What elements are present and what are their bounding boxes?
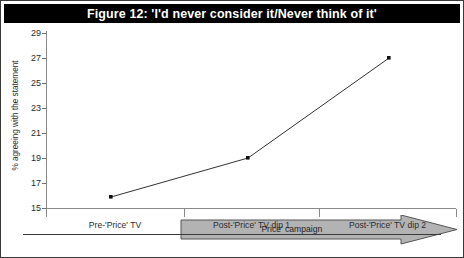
data-point-marker: [109, 195, 113, 199]
x-axis-category-label: Pre-'Price' TV: [46, 220, 184, 230]
chart-plot-area: % agreeing with the statement 29 27 25 2…: [1, 23, 464, 258]
x-axis-category-label: Post-'Price' TV dip 1: [184, 220, 319, 230]
bottom-divider: [23, 234, 441, 235]
series-line: [111, 58, 389, 197]
figure-title: Figure 12: 'I'd never consider it/Never …: [87, 7, 377, 21]
figure-title-bar: Figure 12: 'I'd never consider it/Never …: [4, 4, 460, 23]
data-point-marker: [387, 56, 391, 60]
x-axis-category-label: Post-'Price' TV dip 2: [319, 220, 456, 230]
figure-container: Figure 12: 'I'd never consider it/Never …: [0, 0, 464, 258]
data-point-marker: [246, 156, 250, 160]
